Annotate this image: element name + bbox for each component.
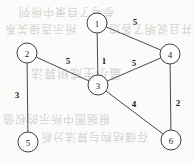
graph-edge-2-3 bbox=[36, 57, 89, 81]
node-label-1: 1 bbox=[95, 19, 100, 29]
edge-weight-3-4: 5 bbox=[132, 58, 137, 68]
edge-weight-3-6: 4 bbox=[132, 99, 137, 109]
graph-edge-3-6 bbox=[106, 91, 163, 134]
node-label-5: 5 bbox=[26, 138, 31, 148]
edge-weight-2-3: 5 bbox=[66, 56, 71, 66]
graph-edge-1-3 bbox=[97, 33, 98, 75]
graph-node-1[interactable]: 1 bbox=[87, 13, 107, 33]
graph-figure: 参考了目录中所列所示连接关系并且说明了各边最小生成树算法根据图中所示的权值存储结… bbox=[0, 0, 194, 164]
node-label-4: 4 bbox=[168, 50, 173, 60]
node-label-3: 3 bbox=[96, 81, 101, 91]
edge-weight-4-6: 2 bbox=[176, 98, 181, 108]
graph-node-6[interactable]: 6 bbox=[161, 130, 181, 150]
graph-node-2[interactable]: 2 bbox=[17, 43, 37, 63]
graph-node-3[interactable]: 3 bbox=[88, 75, 108, 95]
node-label-6: 6 bbox=[169, 136, 174, 146]
graph-edge-1-4 bbox=[106, 27, 161, 50]
edge-weight-1-3: 1 bbox=[102, 56, 107, 66]
graph-edge-4-6 bbox=[170, 64, 171, 130]
graph-canvas: 123456 5153542 bbox=[0, 0, 194, 164]
graph-node-5[interactable]: 5 bbox=[18, 132, 38, 152]
graph-edge-2-5 bbox=[27, 63, 28, 132]
node-label-2: 2 bbox=[25, 49, 30, 59]
graph-node-4[interactable]: 4 bbox=[160, 44, 180, 64]
nodes-group: 123456 bbox=[17, 13, 181, 152]
edge-weight-1-4: 5 bbox=[133, 17, 138, 27]
edge-weight-2-5: 3 bbox=[15, 90, 20, 100]
